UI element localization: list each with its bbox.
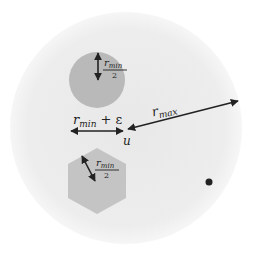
svg-text:2: 2 [112, 71, 117, 80]
svg-text:2: 2 [104, 171, 109, 180]
outer-region [10, 12, 242, 244]
point-u-label: u [123, 134, 131, 148]
circle-obstacle [69, 52, 125, 108]
goal-dot [206, 179, 213, 186]
diagram-canvas: rmin 2 rmin + ε rmax u rmin 2 [0, 0, 255, 256]
